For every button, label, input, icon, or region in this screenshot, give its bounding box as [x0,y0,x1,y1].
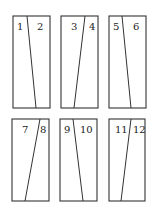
panel-5: 9 10 [60,119,97,201]
panel-2: 3 4 [61,16,98,108]
region-label: 8 [40,124,46,135]
panels-diagram: 1 2 3 4 5 6 7 8 9 10 11 12 [0,0,158,219]
region-label: 1 [17,21,23,32]
region-label: 6 [133,21,139,32]
panel-1: 1 2 [13,16,50,108]
region-label: 5 [113,21,119,32]
region-label: 12 [133,124,146,135]
region-label: 9 [64,124,70,135]
panel-3: 5 6 [109,16,146,108]
region-label: 11 [115,124,128,135]
region-label: 7 [22,124,28,135]
panel-4: 7 8 [12,119,49,201]
region-label: 4 [89,21,95,32]
region-label: 10 [80,124,93,135]
panel-6: 11 12 [109,119,146,201]
region-label: 3 [71,21,77,32]
region-label: 2 [37,21,43,32]
